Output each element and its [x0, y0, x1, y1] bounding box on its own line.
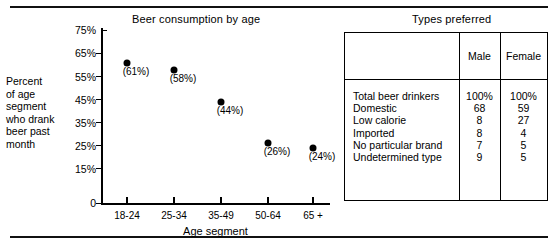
x-axis-tick-mark [220, 197, 221, 204]
y-axis-tick-label: 0 [58, 198, 96, 209]
data-point-label: (44%) [217, 105, 244, 116]
y-axis-tick-mark [96, 53, 102, 54]
table-row-labels: Total beer drinkersDomesticLow calorieIm… [353, 90, 442, 163]
x-axis-line [101, 203, 330, 205]
data-point-label: (58%) [170, 73, 197, 84]
y-axis-tick-mark [96, 203, 102, 204]
x-axis-tick-mark [173, 197, 174, 204]
x-axis-tick-label: 18-24 [114, 210, 140, 221]
top-divider-rule [10, 6, 548, 8]
table-cell-male: 8 [459, 114, 500, 126]
table-header-male: Male [459, 50, 500, 62]
table-column-female-values: 100%5927455 [500, 90, 547, 163]
table-row-label: Imported [353, 127, 442, 139]
table-row-label: Low calorie [353, 114, 442, 126]
table-cell-male: 9 [459, 151, 500, 163]
y-axis-tick-label: 15% [58, 164, 96, 175]
table-cell-male: 7 [459, 139, 500, 151]
types-preferred-table: Male Female Total beer drinkersDomesticL… [344, 32, 548, 201]
table-title: Types preferred [412, 13, 491, 25]
y-axis-tick-label: 75% [58, 25, 96, 36]
y-axis-tick-mark [96, 168, 102, 169]
data-point-label: (26%) [264, 146, 291, 157]
table-cell-female: 100% [500, 90, 547, 102]
y-axis-tick-label: 25% [58, 141, 96, 152]
data-point-label: (61%) [123, 66, 150, 77]
x-axis-tick-label: 35-49 [208, 210, 234, 221]
table-row-label: Total beer drinkers [353, 90, 442, 102]
x-axis-title: Age segment [101, 225, 330, 237]
table-column-male-values: 100%688879 [459, 90, 500, 163]
table-cell-female: 27 [500, 114, 547, 126]
y-axis-tick-mark [96, 122, 102, 123]
y-axis-line [101, 28, 103, 205]
x-axis-tick-mark [267, 197, 268, 204]
x-axis-tick-label: 25-34 [161, 210, 187, 221]
table-cell-female: 5 [500, 139, 547, 151]
y-axis-tick-mark [96, 76, 102, 77]
y-axis-tick-mark [96, 145, 102, 146]
y-axis-tick-label: 55% [58, 72, 96, 83]
table-row-label: Domestic [353, 102, 442, 114]
figure-page: Beer consumption by age Types preferred … [0, 0, 558, 248]
y-axis-tick-label: 35% [58, 118, 96, 129]
table-header-divider [345, 79, 547, 80]
table-cell-female: 5 [500, 151, 547, 163]
table-cell-female: 59 [500, 102, 547, 114]
x-axis-tick-label: 65 + [303, 210, 323, 221]
y-axis-tick-mark [101, 30, 107, 31]
y-axis-tick-labels: 75%65%55%45%35%25%15%0 [56, 22, 96, 236]
beer-consumption-chart: Percent of age segment who drank beer pa… [0, 22, 340, 236]
x-axis-tick-label: 50-64 [255, 210, 281, 221]
x-axis-tick-mark [126, 197, 127, 204]
table-row-label: Undetermined type [353, 151, 442, 163]
table-cell-female: 4 [500, 127, 547, 139]
table-cell-male: 100% [459, 90, 500, 102]
table-cell-male: 68 [459, 102, 500, 114]
table-row-label: No particular brand [353, 139, 442, 151]
table-cell-male: 8 [459, 127, 500, 139]
table-header-female: Female [500, 50, 547, 62]
y-axis-tick-label: 45% [58, 95, 96, 106]
y-axis-tick-mark [96, 99, 102, 100]
x-axis-tick-mark [312, 197, 313, 204]
y-axis-tick-label: 65% [58, 48, 96, 59]
data-point-label: (24%) [309, 151, 336, 162]
plot-area: 18-24(61%)25-34(58%)35-49(44%)50-64(26%)… [101, 28, 330, 205]
